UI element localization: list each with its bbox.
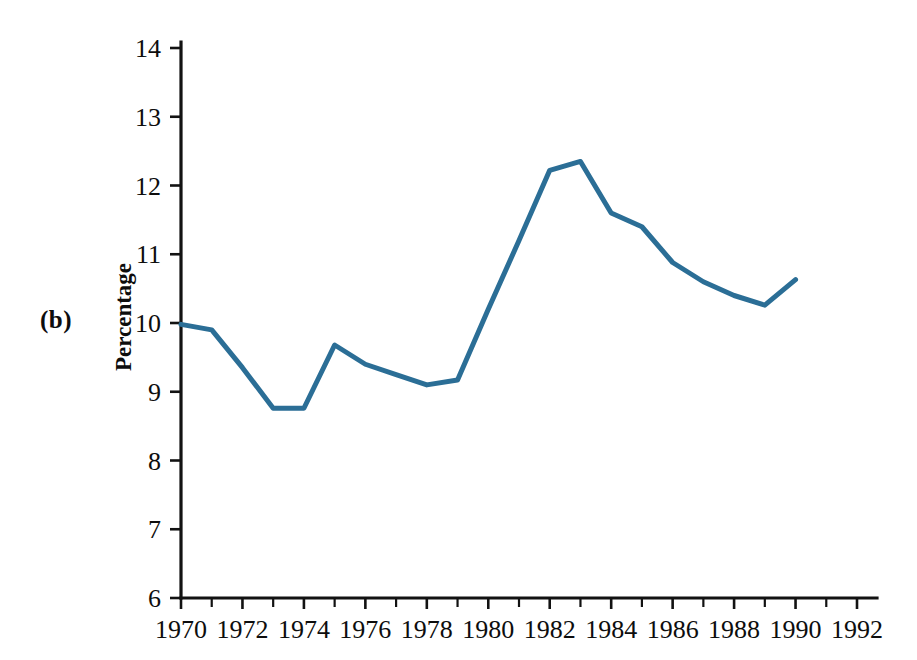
x-tick-group: 1970197219741976197819801982198419861988…	[155, 598, 883, 644]
y-tick-label: 11	[136, 240, 161, 269]
x-axis-group: 1970197219741976197819801982198419861988…	[155, 598, 883, 644]
x-tick-label: 1970	[155, 615, 207, 644]
x-tick-label: 1976	[339, 615, 391, 644]
y-tick-label: 8	[148, 447, 161, 476]
y-tick-label: 9	[148, 378, 161, 407]
panel-label: (b)	[40, 306, 72, 334]
y-axis-title: Percentage	[111, 202, 137, 432]
x-tick-label: 1988	[708, 615, 760, 644]
y-tick-group: 67891011121314	[135, 34, 181, 613]
data-line-percentage	[181, 161, 796, 408]
line-chart-plot: 67891011121314 1970197219741976197819801…	[0, 0, 917, 660]
x-tick-label: 1974	[278, 615, 330, 644]
x-tick-label: 1990	[770, 615, 822, 644]
x-tick-label: 1992	[831, 615, 883, 644]
data-series-group	[181, 161, 796, 408]
y-axis-group: 67891011121314	[135, 34, 181, 613]
y-tick-label: 6	[148, 584, 161, 613]
x-tick-label: 1984	[585, 615, 637, 644]
y-tick-label: 7	[148, 515, 161, 544]
x-tick-label: 1978	[401, 615, 453, 644]
x-tick-label: 1980	[462, 615, 514, 644]
x-tick-label: 1986	[647, 615, 699, 644]
y-tick-label: 10	[135, 309, 161, 338]
chart-figure: (b) Percentage 67891011121314 1970197219…	[0, 0, 917, 660]
x-tick-label: 1972	[216, 615, 268, 644]
y-tick-label: 14	[135, 34, 161, 63]
y-tick-label: 12	[135, 172, 161, 201]
y-tick-label: 13	[135, 103, 161, 132]
x-tick-label: 1982	[524, 615, 576, 644]
